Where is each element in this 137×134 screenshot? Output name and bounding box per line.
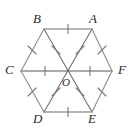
hexagon-figure: B A C F D E O	[0, 0, 137, 134]
vertex-label-B: B	[33, 12, 41, 25]
hexagon-diagram	[0, 0, 137, 134]
tick-edge-C-B	[28, 46, 36, 54]
vertex-label-F: F	[118, 63, 126, 76]
tick-radius-O-B	[52, 46, 60, 54]
tick-radius-O-A	[76, 46, 84, 54]
vertex-label-A: A	[89, 12, 97, 25]
tick-edge-F-E	[98, 88, 106, 96]
vertex-label-E: E	[88, 112, 96, 125]
vertex-label-D: D	[33, 112, 42, 125]
vertex-label-C: C	[5, 63, 14, 76]
tick-radius-O-E	[76, 88, 84, 96]
tick-radius-O-D	[52, 88, 60, 96]
tick-edge-A-F	[98, 46, 106, 54]
center-label-O: O	[62, 76, 70, 89]
